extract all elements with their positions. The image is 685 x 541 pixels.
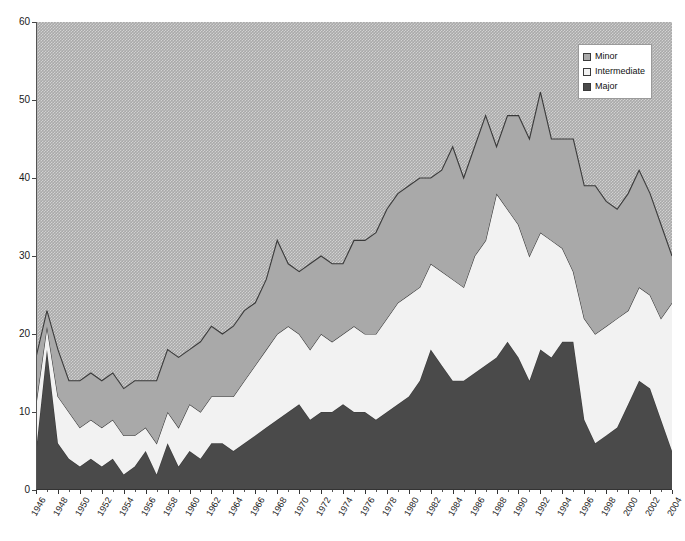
x-tick-mark	[190, 490, 191, 494]
x-tick-mark	[486, 490, 487, 492]
x-tick-label: 1974	[337, 496, 355, 518]
x-tick-mark	[80, 490, 81, 494]
x-tick-mark	[518, 490, 519, 494]
x-tick-mark	[288, 490, 289, 492]
legend-swatch-intermediate-icon	[583, 68, 591, 76]
x-tick-label: 2002	[644, 496, 662, 518]
legend-label-minor: Minor	[595, 52, 618, 61]
x-tick-label: 1948	[52, 496, 70, 518]
x-tick-mark	[639, 490, 640, 492]
x-tick-label: 1994	[556, 496, 574, 518]
chart-legend: Minor Intermediate Major	[578, 44, 652, 99]
x-tick-mark	[354, 490, 355, 492]
x-tick-mark	[420, 490, 421, 492]
x-tick-mark	[343, 490, 344, 494]
x-tick-mark	[113, 490, 114, 492]
x-tick-mark	[179, 490, 180, 492]
x-tick-mark	[200, 490, 201, 492]
x-tick-label: 1952	[96, 496, 114, 518]
x-tick-mark	[321, 490, 322, 494]
x-tick-label: 2000	[622, 496, 640, 518]
x-tick-mark	[332, 490, 333, 492]
x-tick-label: 1958	[162, 496, 180, 518]
x-tick-label: 1966	[249, 496, 267, 518]
x-tick-label: 1956	[140, 496, 158, 518]
x-tick-mark	[376, 490, 377, 492]
plot-area	[36, 22, 672, 490]
x-tick-label: 2004	[666, 496, 684, 518]
x-tick-label: 1976	[359, 496, 377, 518]
x-tick-label: 1998	[600, 496, 618, 518]
x-tick-label: 1968	[271, 496, 289, 518]
stacked-area-chart: 0102030405060 19461948195019521954195619…	[0, 0, 685, 541]
x-tick-mark	[233, 490, 234, 494]
legend-item-minor: Minor	[583, 49, 645, 64]
x-tick-mark	[562, 490, 563, 494]
legend-swatch-major-icon	[583, 83, 591, 91]
y-tick-label: 30	[19, 251, 30, 261]
legend-swatch-minor-icon	[583, 53, 591, 61]
y-tick-label: 10	[19, 407, 30, 417]
y-axis: 0102030405060	[0, 22, 36, 490]
x-tick-mark	[606, 490, 607, 494]
x-tick-mark	[398, 490, 399, 492]
x-tick-mark	[255, 490, 256, 494]
y-tick-label: 0	[24, 485, 30, 495]
y-tick-label: 40	[19, 173, 30, 183]
x-tick-label: 1946	[30, 496, 48, 518]
x-tick-mark	[508, 490, 509, 492]
x-tick-mark	[47, 490, 48, 492]
series-layers	[36, 22, 672, 490]
x-tick-mark	[475, 490, 476, 494]
x-tick-mark	[442, 490, 443, 492]
x-tick-mark	[168, 490, 169, 494]
x-tick-label: 1972	[315, 496, 333, 518]
x-tick-mark	[540, 490, 541, 494]
x-tick-label: 1960	[184, 496, 202, 518]
x-tick-label: 1982	[425, 496, 443, 518]
x-tick-mark	[453, 490, 454, 494]
x-tick-mark	[36, 490, 37, 494]
legend-label-major: Major	[595, 82, 618, 91]
x-tick-mark	[464, 490, 465, 492]
x-tick-mark	[584, 490, 585, 494]
y-tick-label: 50	[19, 95, 30, 105]
x-tick-label: 1950	[74, 496, 92, 518]
x-axis: 1946194819501952195419561958196019621964…	[36, 490, 672, 541]
x-tick-mark	[266, 490, 267, 492]
x-tick-mark	[431, 490, 432, 494]
y-tick-label: 20	[19, 329, 30, 339]
x-tick-label: 1980	[403, 496, 421, 518]
x-tick-mark	[529, 490, 530, 492]
x-tick-mark	[628, 490, 629, 494]
x-tick-mark	[135, 490, 136, 492]
x-tick-label: 1988	[491, 496, 509, 518]
legend-item-intermediate: Intermediate	[583, 64, 645, 79]
x-tick-mark	[661, 490, 662, 492]
x-tick-label: 1992	[534, 496, 552, 518]
x-tick-mark	[551, 490, 552, 492]
x-tick-label: 1978	[381, 496, 399, 518]
x-tick-mark	[409, 490, 410, 494]
legend-label-intermediate: Intermediate	[595, 67, 645, 76]
x-tick-mark	[672, 490, 673, 494]
x-tick-mark	[157, 490, 158, 492]
x-tick-label: 1984	[447, 496, 465, 518]
x-tick-mark	[211, 490, 212, 494]
x-tick-mark	[58, 490, 59, 494]
x-tick-mark	[365, 490, 366, 494]
x-tick-label: 1986	[469, 496, 487, 518]
x-tick-mark	[146, 490, 147, 494]
x-tick-mark	[91, 490, 92, 492]
x-tick-mark	[310, 490, 311, 492]
x-tick-mark	[617, 490, 618, 492]
x-tick-mark	[102, 490, 103, 494]
x-tick-mark	[595, 490, 596, 492]
x-tick-mark	[69, 490, 70, 492]
y-tick-label: 60	[19, 17, 30, 27]
x-tick-mark	[299, 490, 300, 494]
x-tick-label: 1970	[293, 496, 311, 518]
x-tick-mark	[650, 490, 651, 494]
x-tick-mark	[497, 490, 498, 494]
x-tick-mark	[573, 490, 574, 492]
